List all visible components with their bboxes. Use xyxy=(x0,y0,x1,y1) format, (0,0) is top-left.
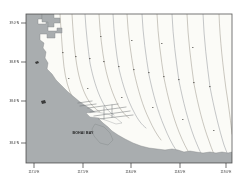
contour-label-mark xyxy=(161,43,163,44)
y-tick-label: 38.4°N xyxy=(10,141,20,145)
y-tick-label: 38.6°N xyxy=(10,99,20,103)
contour-label-mark xyxy=(68,78,69,79)
contour-label-mark xyxy=(209,86,211,87)
contour-label-mark xyxy=(152,107,154,108)
contour-label-mark xyxy=(62,52,64,53)
contour-label-mark xyxy=(89,58,91,59)
contour-label-mark xyxy=(75,56,77,57)
contour-label-mark xyxy=(133,69,135,70)
x-tick-label: 118.5°E xyxy=(175,170,186,174)
contour-label-mark xyxy=(148,72,150,73)
contour-label-mark xyxy=(103,61,105,62)
contour-label-mark xyxy=(118,66,120,67)
contour-label-mark xyxy=(87,88,88,89)
y-tick-label: 38.8°N xyxy=(10,60,20,64)
contour-map-plot: BOHAI BAY 39.0°N 38.8°N 38.6°N 38.4°N 11… xyxy=(0,0,246,182)
contour-label-mark xyxy=(100,36,102,37)
x-tick-label: 119.0°E xyxy=(221,170,232,174)
contour-label-mark xyxy=(193,82,195,83)
place-label-bohai-bay: BOHAI BAY xyxy=(72,131,94,135)
contour-label-mark xyxy=(163,76,165,77)
contour-label-mark xyxy=(121,97,123,98)
figure-container: BOHAI BAY 39.0°N 38.8°N 38.6°N 38.4°N 11… xyxy=(0,0,246,182)
contour-label-mark xyxy=(192,47,194,48)
x-tick-label: 118.0°E xyxy=(126,170,137,174)
contour-label-mark xyxy=(131,40,133,41)
y-tick-label: 39.0°N xyxy=(10,21,20,25)
contour-label-mark xyxy=(178,79,180,80)
contour-label-mark xyxy=(213,130,215,131)
contour-label-mark xyxy=(182,119,184,120)
x-tick-label: 117.0°E xyxy=(29,170,40,174)
x-tick-label: 117.5°E xyxy=(78,170,89,174)
